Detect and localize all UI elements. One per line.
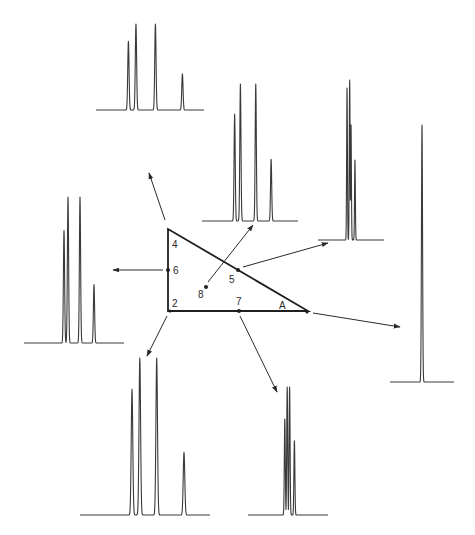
chromatogram-point-4 xyxy=(96,24,204,110)
chromatogram-trace xyxy=(80,358,210,515)
point-8-dot xyxy=(204,285,208,289)
chromatogram-trace xyxy=(24,197,124,343)
chromatogram-point-2 xyxy=(80,358,210,515)
chromatogram-trace xyxy=(318,80,384,240)
label-6: 6 xyxy=(173,265,179,276)
arrow-4 xyxy=(149,173,165,220)
label-5: 5 xyxy=(229,274,235,285)
chromatogram-trace xyxy=(96,24,204,110)
arrow-2 xyxy=(147,316,167,356)
chromatogram-point-6 xyxy=(24,197,124,343)
point-A-dot xyxy=(305,310,308,313)
point-6-dot xyxy=(166,268,170,272)
label-8: 8 xyxy=(198,289,204,300)
chromatogram-point-8 xyxy=(202,84,298,221)
chromatogram-trace xyxy=(390,125,454,382)
point-5-dot xyxy=(236,268,240,272)
label-4: 4 xyxy=(172,239,178,250)
arrow-5 xyxy=(243,243,328,267)
chromatogram-trace xyxy=(202,84,298,221)
label-7: 7 xyxy=(236,296,242,307)
label-A: A xyxy=(279,300,286,311)
point-7-dot xyxy=(237,309,241,313)
arrow-7 xyxy=(240,316,277,392)
chromatogram-trace xyxy=(248,387,328,515)
arrow-A xyxy=(313,313,400,327)
point-2-dot xyxy=(168,309,171,312)
label-2: 2 xyxy=(172,298,178,309)
chromatogram-point-7 xyxy=(248,387,328,515)
chromatogram-point-A xyxy=(390,125,454,382)
mixture-design-figure: 4 2 A 6 5 7 8 xyxy=(0,0,475,535)
chromatogram-point-5 xyxy=(318,80,384,240)
point-labels: 4 2 A 6 5 7 8 xyxy=(172,239,286,311)
